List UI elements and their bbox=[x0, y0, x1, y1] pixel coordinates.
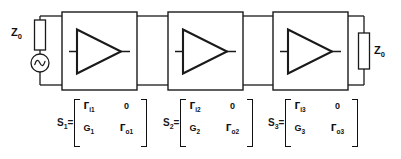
source-impedance-symbol: Z bbox=[11, 26, 18, 38]
source-impedance-resistor bbox=[35, 20, 46, 50]
s-matrix-3-cell-11: Γo3 bbox=[331, 123, 344, 137]
s-matrix-1-left-bracket bbox=[74, 99, 80, 147]
s-matrix-3-cell-00-subscript: i3 bbox=[300, 106, 305, 113]
s-matrix-1-body: Γi1 0 G1 Γo1 bbox=[80, 99, 141, 147]
s-matrix-1-equals: = bbox=[68, 117, 74, 128]
s-matrix-2-cell-10: G2 bbox=[189, 123, 200, 137]
s-matrix-1-right-bracket bbox=[141, 99, 147, 147]
s-matrix-1: S1= Γi1 0 G1 Γo1 bbox=[57, 99, 147, 147]
circuit-diagram-canvas: Z0 Z0 S1= Γi1 0 G1 Γo1 S2= Γi2 0 G2 Γo2 bbox=[0, 0, 401, 159]
s-matrix-2-label: S2= bbox=[163, 117, 179, 130]
source-impedance-label: Z0 bbox=[11, 26, 22, 41]
s-matrix-1-cell-00-subscript: i1 bbox=[89, 106, 94, 113]
s-matrix-3-cell-10-subscript: 3 bbox=[301, 128, 305, 135]
s-matrix-2-right-bracket bbox=[247, 99, 253, 147]
s-matrix-2-cell-00: Γi2 bbox=[189, 101, 200, 115]
s-matrix-2-left-bracket bbox=[180, 99, 186, 147]
s-matrix-3: S3= Γi3 0 G3 Γo3 bbox=[268, 99, 358, 147]
s-matrix-1-cell-01-symbol: 0 bbox=[124, 101, 129, 111]
s-matrix-3-body: Γi3 0 G3 Γo3 bbox=[291, 99, 352, 147]
s-matrix-3-cell-01: 0 bbox=[335, 101, 340, 115]
s-matrix-3-cell-10: G3 bbox=[294, 123, 305, 137]
s-matrix-1-cell-11: Γo1 bbox=[120, 123, 133, 137]
s-matrix-3-cell-01-symbol: 0 bbox=[335, 101, 340, 111]
s-matrix-3-cell-11-subscript: o3 bbox=[337, 128, 345, 135]
s-matrix-2-symbol: S bbox=[163, 117, 170, 128]
s-matrix-3-symbol: S bbox=[268, 117, 275, 128]
s-matrix-2-cell-00-subscript: i2 bbox=[195, 106, 200, 113]
s-matrix-2-body: Γi2 0 G2 Γo2 bbox=[186, 99, 247, 147]
s-matrix-3-right-bracket bbox=[352, 99, 358, 147]
s-matrix-3-equals: = bbox=[279, 117, 285, 128]
load-impedance-symbol: Z bbox=[374, 44, 381, 56]
s-matrix-3-left-bracket bbox=[285, 99, 291, 147]
load-impedance-subscript: 0 bbox=[381, 50, 385, 59]
s-matrix-1-cell-01: 0 bbox=[124, 101, 129, 115]
s-matrix-3-label: S3= bbox=[268, 117, 284, 130]
s-matrix-2-cell-11: Γo2 bbox=[226, 123, 239, 137]
s-matrix-1-label: S1= bbox=[57, 117, 73, 130]
s-matrix-2-cell-10-subscript: 2 bbox=[196, 128, 200, 135]
load-impedance-label: Z0 bbox=[374, 44, 385, 59]
s-matrix-1-cell-10: G1 bbox=[83, 123, 94, 137]
source-impedance-subscript: 0 bbox=[18, 32, 22, 41]
s-matrix-3-cell-00: Γi3 bbox=[294, 101, 305, 115]
s-matrix-2-cell-01: 0 bbox=[230, 101, 235, 115]
load-impedance-resistor bbox=[359, 33, 370, 69]
s-matrix-2-equals: = bbox=[174, 117, 180, 128]
s-matrix-2: S2= Γi2 0 G2 Γo2 bbox=[163, 99, 253, 147]
s-matrix-1-cell-11-subscript: o1 bbox=[126, 128, 134, 135]
s-matrix-2-cell-01-symbol: 0 bbox=[230, 101, 235, 111]
s-matrix-1-symbol: S bbox=[57, 117, 64, 128]
s-matrix-1-cell-00: Γi1 bbox=[83, 101, 94, 115]
s-matrix-1-cell-10-subscript: 1 bbox=[90, 128, 94, 135]
s-matrix-2-cell-11-subscript: o2 bbox=[232, 128, 240, 135]
